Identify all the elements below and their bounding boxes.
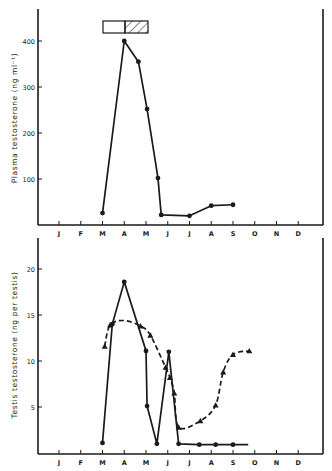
data-point-circle [100,440,105,445]
data-point-circle [159,212,164,217]
data-point-circle [145,107,150,112]
data-point-circle [122,39,127,44]
data-point-circle [197,442,202,447]
x-tick-label-month: N [274,459,279,467]
bar-open-segment [103,21,125,33]
data-point-circle [144,348,149,353]
data-point-triangle [102,343,108,348]
data-point-circle [231,202,236,207]
x-tick-label-month: M [143,230,149,238]
data-point-triangle [213,402,219,407]
data-point-circle [231,442,236,447]
x-tick-label-month: A [209,230,214,238]
top-y-axis-label: Plasma testosterone (ng ml⁻¹) [10,53,19,184]
y-tick-label: 300 [23,84,35,92]
x-tick-label-month: A [122,459,127,467]
x-tick-label-month: A [122,230,127,238]
solid-series-line [103,282,249,445]
top-y-ticks: 100200300400 [23,38,42,184]
bottom-panel: 5101520 JFMAMJJASOND Testis testosterone… [10,238,323,467]
bar-hatched-segment [125,21,148,33]
x-tick-label-month: O [252,459,258,467]
chart-canvas: 100200300400 JFMAMJJASOND Plasma testost… [0,0,332,471]
x-tick-label-month: D [296,459,302,467]
bottom-y-ticks: 5101520 [27,266,42,412]
data-point-circle [136,59,141,64]
figure: 100200300400 JFMAMJJASOND Plasma testost… [0,0,332,471]
y-tick-label: 100 [23,176,35,184]
data-point-circle [176,441,181,446]
y-tick-label: 20 [27,266,35,274]
x-tick-label-month: F [79,459,83,467]
data-point-triangle [220,369,226,374]
dashed-series-line [105,320,250,428]
x-tick-label-month: J [187,459,190,467]
x-tick-label-month: J [57,230,60,238]
x-tick-label-month: A [209,459,214,467]
top-x-ticks: JFMAMJJASOND [57,221,302,238]
x-tick-label-month: F [79,230,83,238]
data-point-circle [187,213,192,218]
x-tick-label-month: J [187,230,190,238]
x-tick-label-month: M [143,459,149,467]
x-tick-label-month: N [274,230,279,238]
x-tick-label-month: J [166,459,169,467]
x-tick-label-month: S [231,459,236,467]
data-point-circle [213,442,218,447]
x-tick-label-month: O [252,230,258,238]
x-tick-label-month: D [296,230,302,238]
x-tick-label-month: J [57,459,60,467]
data-point-circle [156,176,161,181]
data-point-circle [209,203,214,208]
y-tick-label: 15 [27,312,35,320]
data-point-circle [122,279,127,284]
data-point-triangle [230,352,236,357]
bottom-y-axis-label: Testis testosterone (ng per testis) [10,272,19,420]
bottom-x-ticks: JFMAMJJASOND [57,450,302,467]
breeding-period-bar [103,21,148,33]
y-tick-label: 200 [23,130,35,138]
data-point-circle [145,404,150,409]
y-tick-label: 10 [27,358,35,366]
data-point-circle [100,211,105,216]
data-point-circle [154,441,159,446]
solid-series-line [103,41,234,216]
x-tick-label-month: J [166,230,169,238]
x-tick-label-month: M [99,459,105,467]
top-panel: 100200300400 JFMAMJJASOND Plasma testost… [10,9,323,238]
y-tick-label: 400 [23,38,35,46]
top-series [100,39,235,219]
x-tick-label-month: S [231,230,236,238]
x-tick-label-month: M [99,230,105,238]
y-tick-label: 5 [31,404,35,412]
bottom-series [100,279,252,447]
data-point-circle [166,349,171,354]
